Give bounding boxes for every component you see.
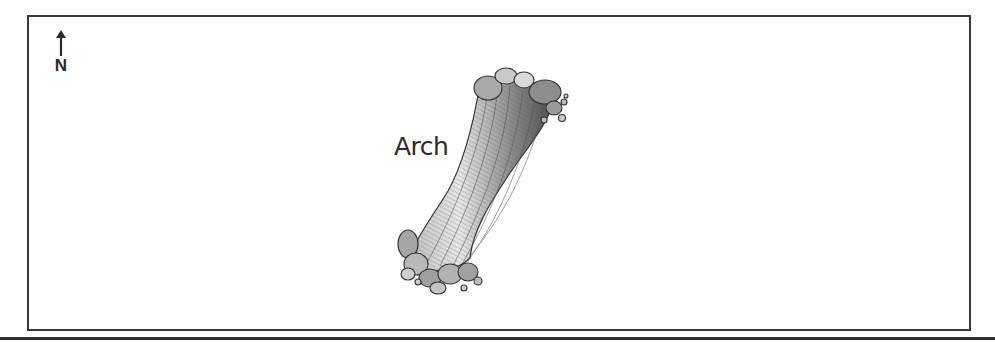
divider-rule [0, 337, 995, 340]
north-label: N [50, 57, 72, 75]
north-arrow-icon [54, 30, 68, 56]
north-indicator: N [50, 30, 72, 75]
rock-arch-illustration [388, 66, 573, 296]
